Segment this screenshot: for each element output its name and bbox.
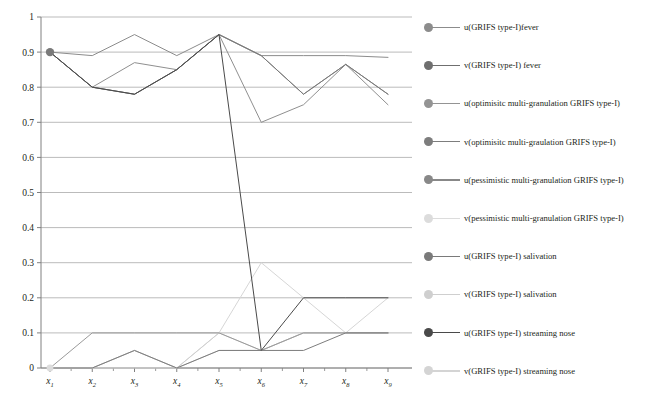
y-tick-label: 0.7 [22,118,34,128]
legend-item-label: u(GRIFS type-I) streaming nose [460,328,575,338]
legend-line-swatch [430,294,460,295]
legend-item-label: u(pessimistic multi-granulation GRIFS ty… [460,175,624,185]
legend-item[interactable]: v(GRIFS type-I) salivation [424,285,557,303]
series-start-marker [46,48,54,56]
legend-item-label: u(GRIFS type-I) salivation [460,251,557,261]
y-tick-label: 1 [29,12,34,22]
legend-marker [424,96,460,110]
x-tick-label: x5 [214,376,223,388]
line-chart-svg: 00.10.20.30.40.50.60.70.80.91x1x2x3x4x5x… [0,0,420,400]
chart-figure: 00.10.20.30.40.50.60.70.80.91x1x2x3x4x5x… [0,0,657,400]
legend-dot-swatch [424,290,433,299]
x-tick-label: x4 [172,376,181,388]
y-tick-label: 0.8 [22,83,34,93]
legend-line-swatch [430,332,460,333]
x-tick-label: x9 [383,376,392,388]
y-tick-label: 0.3 [22,258,34,268]
legend-dot-swatch [424,328,433,337]
legend-line-swatch [430,65,460,66]
legend-item[interactable]: u(optimisitc multi-granulation GRIFS typ… [424,94,620,112]
legend-item[interactable]: u(GRIFS type-I)fever [424,18,539,36]
legend-line-swatch [430,370,460,371]
legend-line-swatch [430,141,460,142]
legend-item[interactable]: v(GRIFS type-I) streaming nose [424,362,575,380]
legend-marker [424,249,460,263]
legend-dot-swatch [424,175,433,184]
chart-legend: u(GRIFS type-I)feverv(GRIFS type-I) feve… [424,0,657,400]
x-tick-label: x3 [130,376,139,388]
series-line [50,35,388,123]
legend-marker [424,20,460,34]
legend-item[interactable]: u(pessimistic multi-granulation GRIFS ty… [424,171,624,189]
y-tick-label: 0.2 [22,293,34,303]
legend-dot-swatch [424,252,433,261]
series-line [50,263,388,368]
legend-marker [424,326,460,340]
y-tick-label: 0.6 [22,153,34,163]
legend-dot-swatch [424,99,433,108]
legend-dot-swatch [424,137,433,146]
legend-item-label: v(GRIFS type-I) streaming nose [460,366,575,376]
y-tick-label: 0.1 [22,328,34,338]
legend-item-label: v(pessimistic multi-granulation GRIFS ty… [460,213,624,223]
x-tick-label: x1 [45,376,53,388]
legend-marker [424,58,460,72]
legend-item-label: v(GRIFS type-I) fever [460,60,541,70]
y-tick-label: 0 [29,363,34,373]
legend-item[interactable]: v(GRIFS type-I) fever [424,56,541,74]
legend-item[interactable]: v(optimisitc multi-graulation GRIFS type… [424,133,616,151]
legend-item[interactable]: u(GRIFS type-I) streaming nose [424,324,575,342]
legend-line-swatch [430,256,460,257]
legend-line-swatch [430,103,460,104]
legend-item-label: v(GRIFS type-I) salivation [460,289,557,299]
legend-dot-swatch [424,214,433,223]
y-tick-label: 0.9 [22,48,34,58]
legend-item-label: v(optimisitc multi-graulation GRIFS type… [460,137,616,147]
legend-marker [424,287,460,301]
legend-marker [424,364,460,378]
legend-line-swatch [430,179,460,180]
y-tick-label: 0.5 [22,188,34,198]
legend-item[interactable]: u(GRIFS type-I) salivation [424,247,557,265]
series-line [50,35,388,95]
legend-marker [424,211,460,225]
legend-item-label: u(GRIFS type-I)fever [460,22,539,32]
legend-dot-swatch [424,366,433,375]
legend-marker [424,173,460,187]
series-origin-marker [47,365,54,372]
x-tick-label: x7 [299,376,308,388]
series-line [50,35,388,95]
legend-marker [424,135,460,149]
x-tick-label: x2 [88,376,97,388]
legend-dot-swatch [424,61,433,70]
legend-line-swatch [430,218,460,219]
series-line [50,333,388,368]
x-tick-label: x8 [341,376,350,388]
legend-dot-swatch [424,23,433,32]
y-tick-label: 0.4 [22,223,34,233]
legend-line-swatch [430,27,460,28]
legend-item[interactable]: v(pessimistic multi-granulation GRIFS ty… [424,209,624,227]
x-tick-label: x6 [257,376,266,388]
plot-area: 00.10.20.30.40.50.60.70.80.91x1x2x3x4x5x… [0,0,420,400]
legend-item-label: u(optimisitc multi-granulation GRIFS typ… [460,98,620,108]
